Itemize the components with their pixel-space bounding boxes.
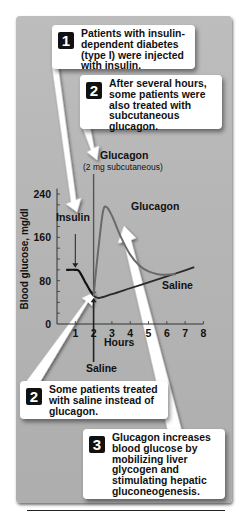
x-tick-label: 5 (146, 327, 152, 339)
series-insulin-line (66, 270, 93, 296)
step-number-2b: 2 (26, 388, 42, 405)
callout-1-arrow (52, 66, 81, 212)
x-tick-label: 6 (164, 327, 170, 339)
x-tick-label: 2 (91, 327, 97, 339)
callout-2-saline: 2 Some patients treated with saline inst… (20, 381, 168, 419)
y-tick-label: 0 (45, 318, 51, 330)
x-tick-label: 7 (182, 327, 188, 339)
callout-2-glucagon: 2 After several hours, some patients wer… (80, 75, 222, 129)
step-number-3: 3 (89, 436, 105, 453)
saline-curve-label: Saline (162, 279, 193, 291)
y-axis-label: Blood glucose, mg/dl (19, 208, 30, 309)
x-axis-label: Hours (104, 336, 134, 348)
callout-1-text: Patients with insulin-dependent diabetes… (81, 29, 190, 72)
y-tick-label: 240 (33, 188, 51, 200)
insulin-label: Insulin (56, 211, 90, 223)
glucagon-dose-label: (2 mg subcutaneous) (83, 162, 163, 172)
callout-2-saline-text: Some patients treated with saline instea… (49, 385, 163, 417)
callout-3: 3 Glucagon increases blood glucose by mo… (83, 429, 225, 499)
bottom-rule (27, 510, 225, 511)
glucagon-curve-label: Glucagon (131, 200, 179, 212)
step-number-1: 1 (58, 32, 74, 49)
saline-injection-label: Saline (86, 362, 117, 374)
insulin-injection-arrowhead (72, 263, 78, 267)
callout-3-text: Glucagon increases blood glucose by mobi… (112, 433, 220, 498)
x-tick-label: 8 (200, 327, 206, 339)
y-tick-label: 80 (39, 275, 51, 287)
callout-2-glucagon-text: After several hours, some patients were … (109, 79, 217, 133)
step-number-2: 2 (86, 82, 102, 99)
callout-1: 1 Patients with insulin-dependent diabet… (52, 25, 195, 69)
y-tick-label: 160 (33, 231, 51, 243)
glucagon-injection-label: Glucagon (100, 149, 148, 161)
x-tick-label: 1 (72, 327, 78, 339)
callout-2-glucagon-arrow (82, 126, 99, 160)
callout-2-saline-arrow (26, 292, 95, 382)
